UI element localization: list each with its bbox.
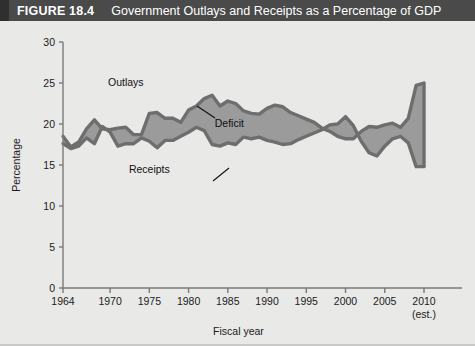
y-tick-label-5: 5: [49, 241, 55, 253]
x-tick-label-2010: 2010: [412, 295, 436, 307]
x-tick-label-1995: 1995: [295, 295, 319, 307]
y-tick-label-0: 0: [49, 282, 55, 294]
figure-number-label: FIGURE 18.4: [17, 4, 94, 18]
x-tick-label-1970: 1970: [98, 295, 122, 307]
y-axis-title: Percentage: [10, 138, 22, 192]
figure-header-banner: FIGURE 18.4 Government Outlays and Recei…: [0, 0, 475, 21]
figure-container: FIGURE 18.4 Government Outlays and Recei…: [0, 0, 475, 346]
y-tick-label-20: 20: [43, 118, 55, 130]
y-tick-label-15: 15: [43, 159, 55, 171]
x-tick-label-1975: 1975: [138, 295, 162, 307]
outlays-label: Outlays: [108, 76, 144, 88]
x-tick-note-est: (est.): [412, 308, 436, 320]
y-tick-label-30: 30: [43, 36, 55, 48]
x-tick-label-1980: 1980: [177, 295, 201, 307]
receipts-leader-line: [213, 168, 229, 181]
deficit-label: Deficit: [215, 117, 244, 129]
x-tick-label-1985: 1985: [216, 295, 240, 307]
figure-title-label: Government Outlays and Receipts as a Per…: [111, 4, 441, 18]
y-tick-label-25: 25: [43, 77, 55, 89]
receipts-label: Receipts: [129, 163, 170, 175]
x-tick-label-2005: 2005: [373, 295, 397, 307]
outlays-receipts-area-chart: 0510152025301964197019751980198519901995…: [0, 21, 475, 346]
x-axis-title: Fiscal year: [213, 325, 264, 337]
plot-body: 0510152025301964197019751980198519901995…: [0, 21, 475, 346]
x-tick-label-1990: 1990: [255, 295, 279, 307]
x-tick-label-1964: 1964: [51, 295, 75, 307]
y-tick-label-10: 10: [43, 200, 55, 212]
chart-render-group: 0510152025301964197019751980198519901995…: [10, 36, 462, 337]
x-tick-label-2000: 2000: [334, 295, 358, 307]
